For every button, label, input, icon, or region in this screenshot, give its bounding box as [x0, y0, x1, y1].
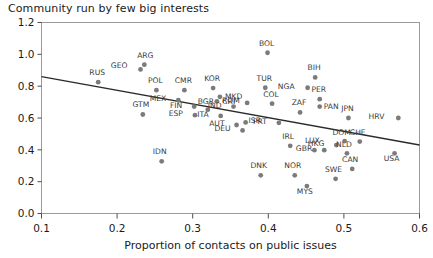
point-label: GEO: [111, 61, 128, 70]
point-label: NOR: [284, 161, 302, 170]
point-label: PER: [311, 85, 326, 94]
data-point: [396, 116, 401, 121]
x-tick-label: 0.5: [336, 222, 353, 234]
y-tick-label: 1.0: [18, 48, 35, 60]
data-point: [142, 62, 147, 67]
data-point: [270, 101, 275, 106]
data-point: [159, 159, 164, 164]
point-label: RUS: [89, 68, 105, 77]
data-point: [298, 110, 303, 115]
point-label: CRI: [222, 97, 235, 106]
x-tick-label: 0.3: [184, 222, 201, 234]
point-label: USA: [384, 154, 401, 163]
y-tick-label: 1.2: [18, 16, 35, 28]
plot-frame: [42, 23, 420, 214]
x-tick-label: 0.2: [109, 222, 126, 234]
data-point: [265, 50, 270, 55]
chart-container: Community run by few big interests 0.00.…: [0, 0, 433, 258]
point-label: TUR: [256, 74, 273, 83]
data-point: [276, 120, 281, 125]
point-label: HRV: [369, 112, 386, 121]
y-tick-label: 0.2: [18, 175, 35, 187]
data-point: [234, 123, 239, 128]
x-axis-title: Proportion of contacts on public issues: [124, 239, 337, 252]
data-point: [350, 167, 355, 172]
point-label: GTM: [132, 100, 149, 109]
y-tick-label: 0.0: [18, 207, 35, 219]
point-label: DNK: [250, 161, 268, 170]
point-label: PRT: [253, 117, 267, 126]
data-point: [313, 75, 318, 80]
point-label: DEU: [214, 124, 230, 133]
point-label: JPN: [340, 104, 354, 113]
point-label: ARG: [137, 51, 153, 60]
data-point: [312, 148, 317, 153]
scatter-plot: 0.00.20.40.60.81.01.20.10.20.30.40.50.6P…: [0, 0, 433, 258]
data-point: [140, 112, 145, 117]
data-point: [192, 104, 197, 109]
x-tick-label: 0.6: [411, 222, 428, 234]
data-point: [317, 97, 322, 102]
data-point: [211, 86, 216, 91]
point-label: PAN: [324, 102, 339, 111]
point-label: NLD: [336, 140, 352, 149]
point-label: HKG: [308, 139, 325, 148]
point-label: BIH: [308, 63, 321, 72]
data-point: [258, 173, 263, 178]
point-label: CAN: [342, 155, 358, 164]
data-point: [346, 116, 351, 121]
data-point: [138, 67, 143, 72]
data-point: [96, 80, 101, 85]
y-tick-label: 0.8: [18, 80, 35, 92]
point-label: MYS: [297, 187, 313, 196]
data-point: [240, 128, 245, 133]
x-tick-label: 0.1: [33, 222, 50, 234]
data-point: [218, 114, 223, 119]
point-label: POL: [148, 76, 164, 85]
data-point: [305, 85, 310, 90]
point-label: CHE: [350, 128, 366, 137]
data-point: [333, 176, 338, 181]
data-point: [357, 139, 362, 144]
point-label: ITA: [197, 110, 209, 119]
data-point: [292, 173, 297, 178]
y-tick-label: 0.6: [18, 112, 35, 124]
point-label: CMR: [175, 76, 193, 85]
point-label: ZAF: [292, 98, 307, 107]
point-label: ESP: [169, 109, 184, 118]
data-point: [243, 120, 248, 125]
data-point: [317, 104, 322, 109]
data-point: [182, 88, 187, 93]
x-tick-label: 0.4: [260, 222, 277, 234]
point-label: SWE: [325, 165, 342, 174]
y-tick-label: 0.4: [18, 144, 35, 156]
data-point: [154, 88, 159, 93]
data-point: [288, 143, 293, 148]
point-label: IDN: [153, 147, 167, 156]
point-label: NGA: [278, 82, 296, 91]
point-label: BOL: [259, 39, 275, 48]
data-point: [322, 148, 327, 153]
point-label: DOM: [332, 128, 350, 137]
point-label: IND: [208, 101, 222, 110]
point-label: COL: [263, 90, 279, 99]
point-label: KOR: [204, 74, 221, 83]
data-point: [245, 100, 250, 105]
point-label: IRL: [282, 132, 295, 141]
point-label: MEX: [150, 94, 167, 103]
